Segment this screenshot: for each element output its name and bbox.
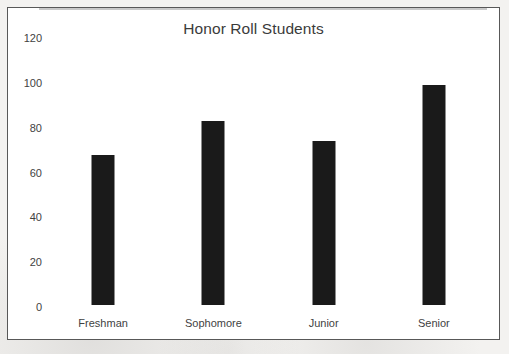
y-axis-tick-label: 100	[24, 77, 42, 89]
x-axis-line	[39, 8, 487, 10]
x-axis-tick-label: Sophomore	[185, 317, 242, 329]
y-axis-tick-label: 0	[36, 301, 42, 313]
chart-frame: Honor Roll Students 020406080100120 Fres…	[7, 7, 500, 340]
y-axis: 020406080100120	[8, 38, 48, 305]
x-axis-labels: FreshmanSophomoreJuniorSenior	[48, 317, 489, 333]
x-axis-tick-label: Junior	[309, 317, 339, 329]
bar-slot	[269, 38, 379, 305]
bar-junior[interactable]	[312, 141, 335, 305]
x-axis-tick-label: Senior	[418, 317, 450, 329]
bar-series	[48, 38, 489, 305]
chart-title: Honor Roll Students	[8, 20, 499, 38]
bar-slot	[379, 38, 489, 305]
bar-freshman[interactable]	[92, 155, 115, 305]
y-axis-tick-label: 120	[24, 32, 42, 44]
y-axis-tick-label: 60	[30, 167, 42, 179]
bar-slot	[48, 38, 158, 305]
page-background: Honor Roll Students 020406080100120 Fres…	[0, 0, 509, 354]
bar-senior[interactable]	[422, 85, 445, 305]
y-axis-tick-label: 20	[30, 256, 42, 268]
y-axis-tick-label: 40	[30, 211, 42, 223]
y-axis-tick-label: 80	[30, 122, 42, 134]
bar-sophomore[interactable]	[202, 121, 225, 305]
x-axis-tick-label: Freshman	[78, 317, 128, 329]
bar-slot	[158, 38, 268, 305]
